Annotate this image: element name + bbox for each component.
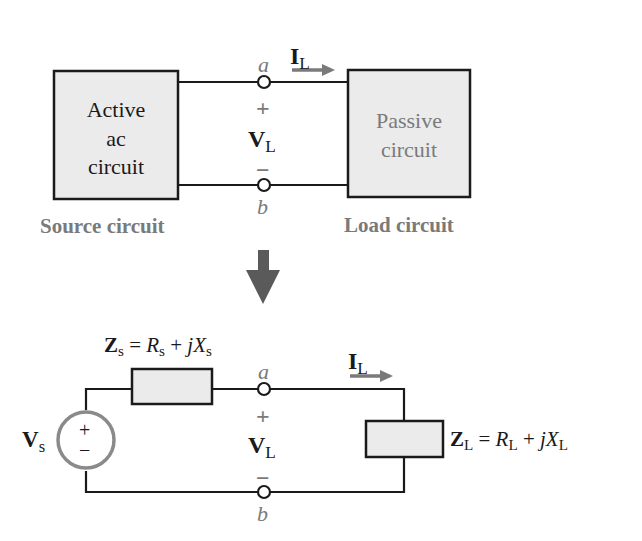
bottom-plus-sign: +	[256, 404, 270, 428]
terminal-a-node	[258, 76, 270, 88]
load-box-text: Passive circuit	[348, 107, 470, 164]
down-arrow-icon	[246, 250, 280, 304]
bottom-load-voltage-label: VL	[248, 433, 276, 461]
bottom-wire-load-to-b	[270, 457, 404, 492]
load-current-label: IL	[290, 44, 310, 72]
bottom-terminal-a-label: a	[258, 361, 269, 383]
source-box-line-3: circuit	[54, 153, 178, 182]
source-plus-sign: +	[79, 420, 90, 440]
circuit-diagram	[0, 0, 642, 541]
source-box-line-1: Active	[54, 96, 178, 125]
bottom-terminal-b-label: b	[257, 503, 268, 525]
load-impedance-box	[366, 421, 443, 457]
terminal-a-label: a	[258, 54, 269, 76]
plus-sign: +	[256, 96, 270, 120]
load-box-line-1: Passive	[348, 107, 470, 136]
terminal-b-label: b	[257, 196, 268, 218]
bottom-wire-a-to-load	[270, 389, 404, 421]
minus-sign: −	[256, 158, 270, 182]
load-circuit-caption: Load circuit	[344, 215, 454, 236]
bottom-wire-b-to-source	[86, 471, 258, 492]
source-voltage-label: Vs	[22, 428, 45, 455]
source-impedance-box	[132, 369, 212, 404]
source-box-line-2: ac	[54, 125, 178, 154]
source-circuit-caption: Source circuit	[40, 216, 165, 237]
bottom-minus-sign: −	[256, 466, 270, 490]
bottom-terminal-a-node	[258, 383, 270, 395]
source-impedance-label: Zs = Rs + jXs	[104, 335, 212, 359]
source-box-text: Active ac circuit	[54, 96, 178, 182]
bottom-load-current-label: IL	[348, 349, 368, 377]
load-impedance-label: ZL = RL + jXL	[450, 429, 568, 453]
source-minus-sign: −	[79, 440, 90, 460]
load-box-line-2: circuit	[348, 136, 470, 165]
load-voltage-label: VL	[248, 127, 276, 155]
bottom-wire-top-left	[86, 389, 132, 410]
